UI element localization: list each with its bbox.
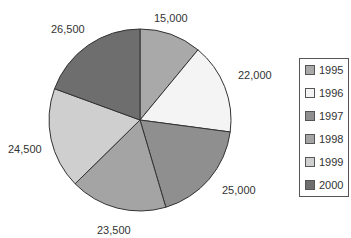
legend-label: 1998: [319, 133, 343, 145]
legend-label: 1995: [319, 64, 343, 76]
legend-item-2000: 2000: [305, 178, 343, 192]
legend-item-1999: 1999: [305, 155, 343, 169]
legend-label: 2000: [319, 179, 343, 191]
legend-label: 1996: [319, 87, 343, 99]
legend-swatch-1998: [305, 134, 315, 144]
value-label-2000: 26,500: [51, 23, 85, 35]
legend-item-1996: 1996: [305, 86, 343, 100]
legend-swatch-2000: [305, 180, 315, 190]
legend-label: 1999: [319, 156, 343, 168]
legend-swatch-1999: [305, 157, 315, 167]
value-label-1997: 25,000: [222, 184, 256, 196]
legend-item-1997: 1997: [305, 109, 343, 123]
value-label-1995: 15,000: [154, 12, 188, 24]
legend-swatch-1997: [305, 111, 315, 121]
value-label-1996: 22,000: [238, 69, 272, 81]
legend-swatch-1995: [305, 65, 315, 75]
legend-label: 1997: [319, 110, 343, 122]
legend-swatch-1996: [305, 88, 315, 98]
legend-item-1998: 1998: [305, 132, 343, 146]
value-label-1998: 23,500: [97, 224, 131, 236]
legend-item-1995: 1995: [305, 63, 343, 77]
value-label-1999: 24,500: [8, 143, 42, 155]
legend: 1995 1996 1997 1998 1999 2000: [299, 58, 349, 197]
